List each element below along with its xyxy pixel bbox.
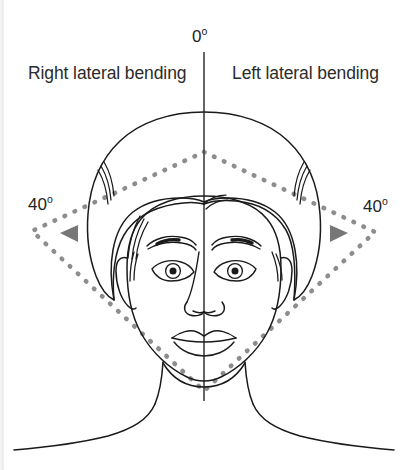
left-range-unit: o <box>47 193 53 205</box>
zero-degree-label: 0o <box>192 28 207 45</box>
hair-strand-left-2 <box>101 166 111 200</box>
right-lateral-bending-label: Right lateral bending <box>28 65 186 83</box>
hairline-front-right <box>204 201 295 300</box>
hair-tuft-center-2 <box>206 200 228 209</box>
nostril-shadow-left <box>193 311 204 313</box>
left-range-value: 40 <box>28 195 47 214</box>
ear-right <box>272 258 292 309</box>
left-range-degree-label: 40o <box>28 196 53 213</box>
right-arrow-marker <box>330 225 348 242</box>
zero-degree-unit: o <box>201 25 207 37</box>
ear-left <box>116 258 136 309</box>
pupil-right <box>232 268 239 275</box>
left-arrow-marker <box>60 225 78 242</box>
right-range-degree-label: 40o <box>363 198 388 215</box>
nose-left-wing <box>185 302 204 316</box>
lateral-bending-figure: Right lateral bending Left lateral bendi… <box>0 0 408 470</box>
nostril-shadow-right <box>204 311 215 313</box>
eyebrow-left-lower <box>148 242 196 250</box>
right-range-unit: o <box>382 195 388 207</box>
neck-right <box>245 362 253 404</box>
shoulder-left <box>14 404 155 450</box>
nose-right-wing <box>204 302 224 316</box>
pupil-left <box>170 268 177 275</box>
hair-strand-right-2 <box>297 166 307 200</box>
neck-left <box>155 362 163 404</box>
shoulder-right <box>253 404 394 450</box>
right-range-value: 40 <box>363 197 382 216</box>
left-lateral-bending-label: Left lateral bending <box>232 65 379 83</box>
